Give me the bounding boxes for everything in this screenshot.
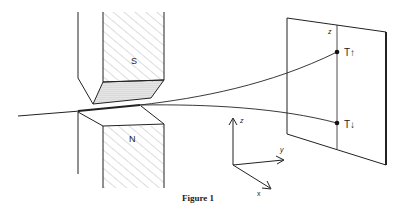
axis-label-x: x [257,190,261,197]
screen-z-label: z [327,28,332,35]
south-magnet [78,12,164,104]
spot-upper [335,50,340,55]
atom-beam [18,52,337,123]
spot-label-upper: T↑ [344,47,355,58]
coordinate-axes [229,118,284,189]
spot-label-lower: T↓ [344,119,355,130]
detector-screen [287,18,386,165]
north-magnet [78,106,164,188]
figure-caption: Figure 1 [182,193,215,203]
stern-gerlach-diagram: S N z T↑ T↓ z y x Figure 1 [0,0,404,215]
spot-lower [335,121,340,126]
pole-label-n: N [129,134,136,144]
pole-label-s: S [131,56,137,66]
axis-label-y: y [279,146,284,154]
axis-label-z: z [239,117,244,124]
